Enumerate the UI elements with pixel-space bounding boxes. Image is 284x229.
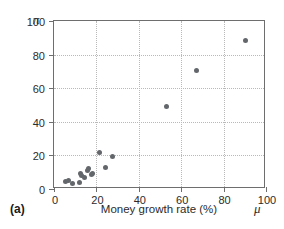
y-tick-label: 40 [33, 117, 45, 128]
gridline-horizontal [54, 122, 264, 123]
x-tick-mark: 80 [224, 187, 225, 192]
panel-label: (a) [10, 203, 25, 215]
y-tick-label: 100 [27, 17, 45, 28]
data-point [164, 104, 169, 109]
x-tick-mark: 100 [266, 187, 267, 192]
data-point [110, 154, 115, 159]
data-point [77, 180, 82, 185]
y-tick-mark: 60 [49, 88, 54, 89]
y-tick-mark: 100 [49, 21, 54, 22]
x-tick-mark: 0 [54, 187, 55, 192]
gridline-vertical [224, 21, 225, 187]
plot-area: 020406080100 020406080100 [53, 20, 265, 188]
x-tick-mark: 20 [96, 187, 97, 192]
y-tick-mark: 20 [49, 155, 54, 156]
x-tick-mark: 40 [139, 187, 140, 192]
gridline-vertical [96, 21, 97, 187]
y-tick-label: 0 [39, 185, 45, 196]
gridline-horizontal [54, 88, 264, 89]
mu-axis-symbol: μ [254, 202, 261, 215]
y-tick-mark: 40 [49, 122, 54, 123]
data-point [103, 165, 108, 170]
data-point [82, 175, 87, 180]
y-tick-label: 60 [33, 84, 45, 95]
x-axis-title: Money growth rate (%) [53, 203, 265, 215]
gridline-horizontal [54, 55, 264, 56]
data-point [97, 150, 102, 155]
y-tick-label: 80 [33, 50, 45, 61]
y-tick-mark: 80 [49, 55, 54, 56]
data-point [243, 38, 248, 43]
data-point [90, 171, 95, 176]
data-point [194, 68, 199, 73]
x-tick-mark: 60 [181, 187, 182, 192]
scatter-chart-figure: π 020406080100 020406080100 Inflation ra… [0, 0, 284, 229]
gridline-horizontal [54, 155, 264, 156]
gridline-vertical [139, 21, 140, 187]
data-point [70, 181, 75, 186]
gridline-vertical [181, 21, 182, 187]
y-tick-label: 20 [33, 151, 45, 162]
data-point [86, 166, 91, 171]
